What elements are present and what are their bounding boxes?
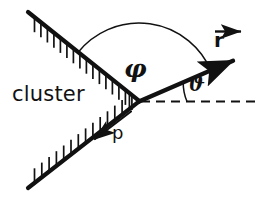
theta-angle-label: ϑ — [188, 74, 205, 94]
lower-boundary-line — [28, 101, 140, 188]
r-vector-arrow — [140, 61, 234, 101]
cluster-label: cluster — [12, 84, 85, 105]
scattering-geometry-figure: cluster φ ϑ p r — [0, 0, 265, 202]
r-vector-label: r — [214, 30, 224, 50]
p-momentum-label: p — [112, 124, 123, 142]
theta-angle-arc — [183, 82, 187, 101]
phi-angle-label: φ — [124, 56, 147, 81]
